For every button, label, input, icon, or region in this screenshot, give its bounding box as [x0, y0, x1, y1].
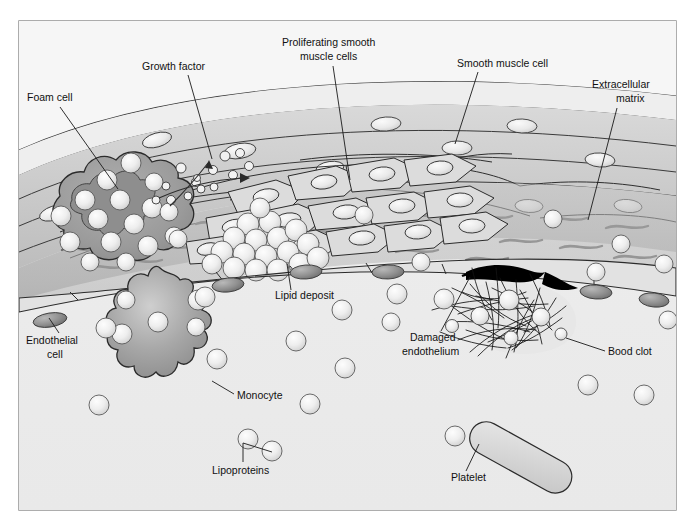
label-lipoproteins: Lipoproteins: [212, 464, 269, 476]
label-bood-clot: Bood clot: [608, 345, 652, 357]
label-damaged-endothelium-line1: Damaged: [410, 331, 456, 343]
label-monocyte: Monocyte: [237, 389, 283, 401]
label-extracellular-matrix-line2: matrix: [616, 92, 645, 104]
label-growth-factor: Growth factor: [142, 60, 206, 72]
label-extracellular-matrix-line1: Extracellular: [592, 78, 650, 90]
label-smooth-muscle-cell: Smooth muscle cell: [457, 57, 548, 69]
label-proliferating-smooth-muscle-cells-line2: muscle cells: [300, 50, 357, 62]
label-platelet: Platelet: [451, 471, 486, 483]
label-proliferating-smooth-muscle-cells-line1: Proliferating smooth: [282, 36, 376, 48]
label-damaged-endothelium-line2: endothelium: [402, 345, 459, 357]
label-endothelial-cell-line2: cell: [47, 348, 63, 360]
diagram-stage: Foam cell Growth factor Proliferating sm…: [0, 0, 693, 526]
label-foam-cell: Foam cell: [27, 91, 73, 103]
label-lipid-deposit: Lipid deposit: [275, 289, 334, 301]
atherosclerosis-diagram: Foam cell Growth factor Proliferating sm…: [0, 0, 693, 526]
label-endothelial-cell-line1: Endothelial: [26, 334, 78, 346]
